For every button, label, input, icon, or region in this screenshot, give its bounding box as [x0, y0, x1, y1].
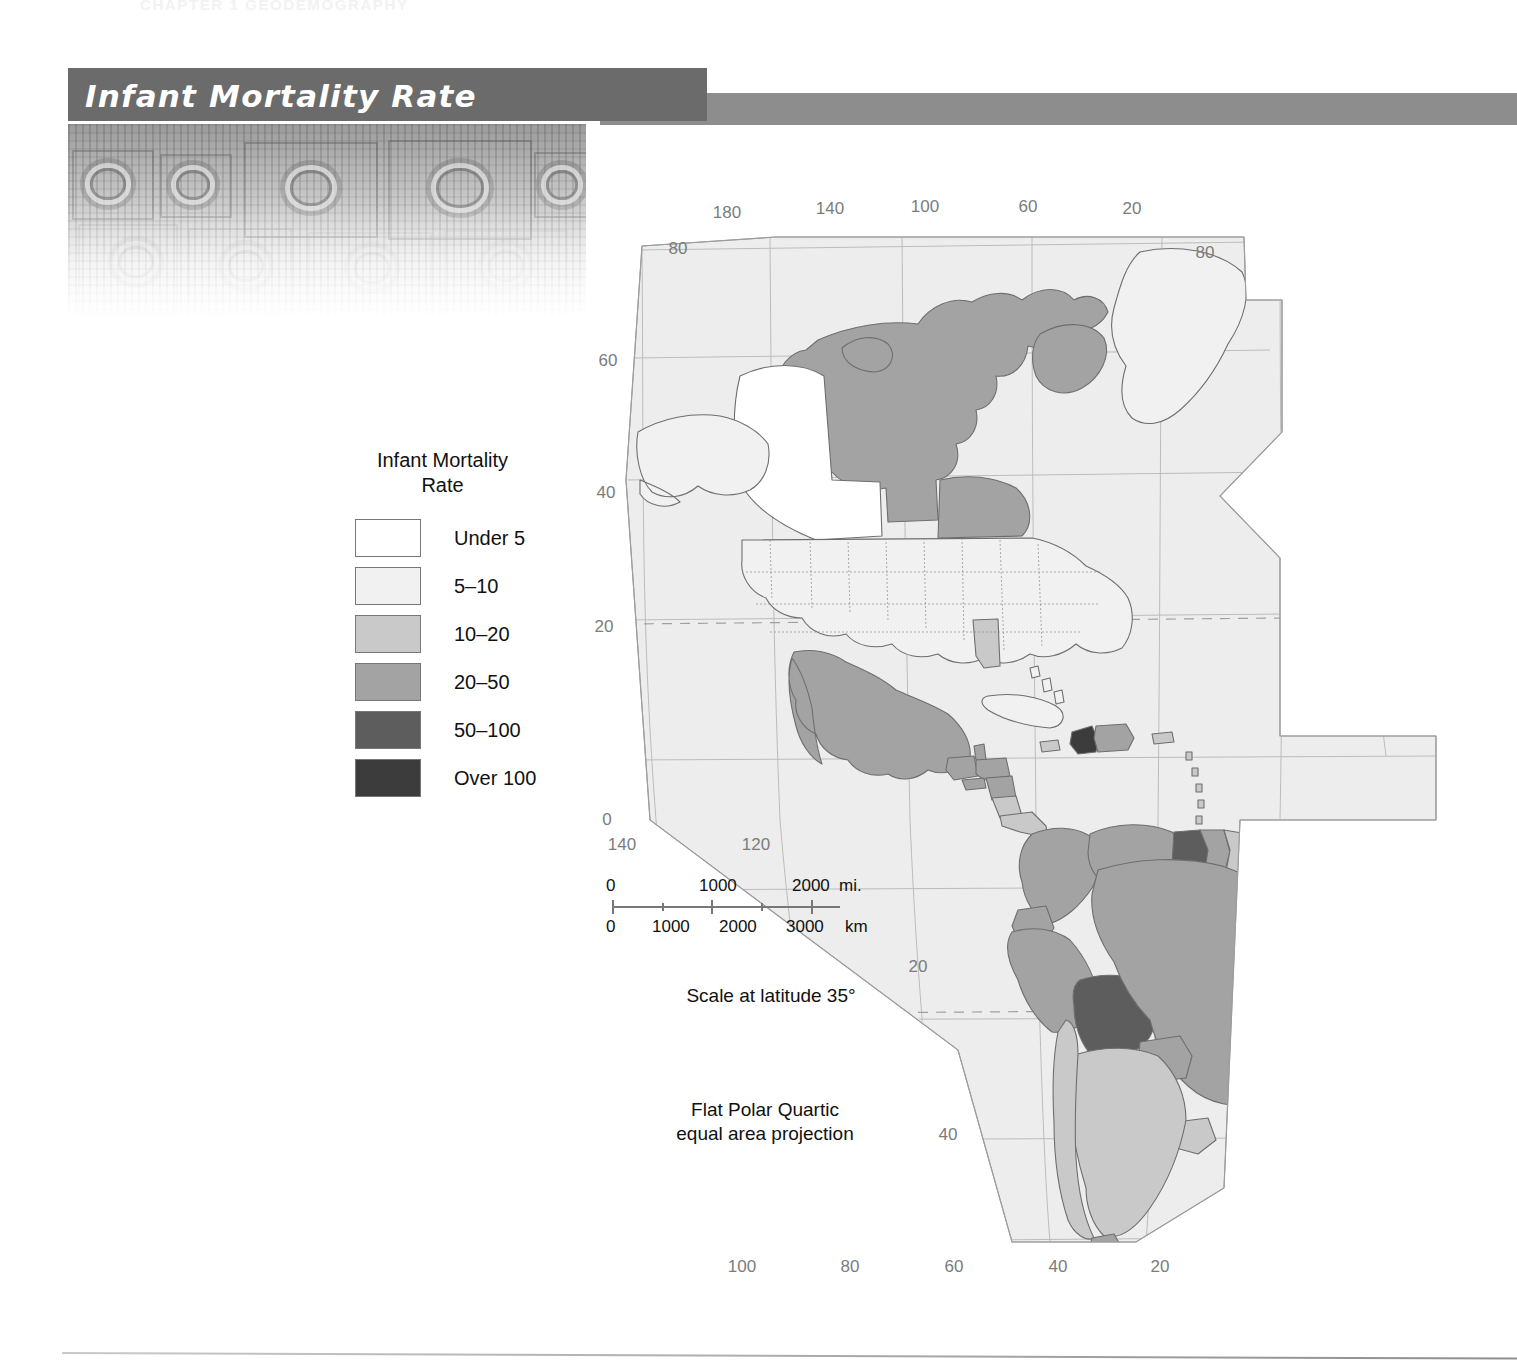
scale-miles-0: 0 [606, 876, 615, 896]
legend-swatch-50-100 [355, 711, 421, 749]
legend-swatch-under-5 [355, 519, 421, 557]
legend-item-10-20[interactable]: 10–20 [355, 610, 555, 658]
legend-label-10-20: 10–20 [454, 623, 510, 646]
bottom-longitude-140: 140 [608, 835, 636, 854]
projection-note: Flat Polar Quartic equal area projection [600, 1098, 930, 1146]
top-longitude-60: 60 [1019, 197, 1038, 216]
scale-km-labels: 0 1000 2000 3000 km [606, 917, 866, 939]
scale-ruler [606, 900, 866, 914]
bottom-longitude-60: 60 [945, 1257, 964, 1276]
south-latitude-20: 20 [909, 957, 928, 976]
legend-label-5-10: 5–10 [454, 575, 499, 598]
page-title: Infant Mortality Rate [85, 78, 477, 114]
legend-item-20-50[interactable]: 20–50 [355, 658, 555, 706]
textile-pattern-photograph [68, 124, 586, 318]
bottom-longitude-80: 80 [841, 1257, 860, 1276]
legend-swatch-10-20 [355, 615, 421, 653]
legend-swatch-over-100 [355, 759, 421, 797]
top-longitude-140: 140 [816, 199, 844, 218]
legend-label-20-50: 20–50 [454, 671, 510, 694]
left-latitude-80: 80 [669, 239, 688, 258]
scale-miles-2000: 2000 [792, 876, 830, 896]
top-longitude-180: 180 [713, 203, 741, 222]
scale-km-0: 0 [606, 917, 615, 937]
bottom-longitude-100: 100 [728, 1257, 756, 1276]
bottom-longitude-40: 40 [1049, 1257, 1068, 1276]
scale-miles-1000: 1000 [699, 876, 737, 896]
top-longitude-20: 20 [1123, 199, 1142, 218]
projection-line2: equal area projection [600, 1122, 930, 1146]
legend-item-5-10[interactable]: 5–10 [355, 562, 555, 610]
region-jamaica [1040, 740, 1060, 752]
bottom-longitude-20: 20 [1151, 1257, 1170, 1276]
scale-km-2000: 2000 [719, 917, 757, 937]
region-dominican-republic [1094, 724, 1134, 752]
legend-item-50-100[interactable]: 50–100 [355, 706, 555, 754]
scale-km-3000: 3000 [786, 917, 824, 937]
legend-title-line1: Infant Mortality [355, 448, 530, 473]
region-el-salvador [962, 778, 986, 790]
scale-miles-labels: 0 1000 2000 mi. [606, 876, 866, 898]
legend-title-line2: Rate [355, 473, 530, 498]
region-puerto-rico [1152, 732, 1174, 744]
scale-miles-unit: mi. [839, 876, 862, 896]
top-longitude-100: 100 [911, 197, 939, 216]
region-falklands [1174, 1224, 1188, 1234]
legend-title: Infant Mortality Rate [355, 448, 530, 498]
south-latitude-40: 40 [939, 1125, 958, 1144]
region-guatemala [946, 756, 978, 780]
legend-label-under-5: Under 5 [454, 527, 525, 550]
legend-swatch-20-50 [355, 663, 421, 701]
secondary-banner-bar [600, 93, 1517, 125]
bottom-longitude-120: 120 [742, 835, 770, 854]
photo-fade-overlay [68, 124, 586, 318]
scale-caption: Scale at latitude 35° [606, 985, 936, 1007]
projection-line1: Flat Polar Quartic [600, 1098, 930, 1122]
legend-item-over-100[interactable]: Over 100 [355, 754, 555, 802]
region-belize [974, 744, 986, 760]
scale-km-unit: km [845, 917, 868, 937]
left-latitude-20: 20 [595, 617, 614, 636]
map-legend: Infant Mortality Rate Under 5 5–10 10–20… [355, 448, 555, 802]
legend-item-under-5[interactable]: Under 5 [355, 514, 555, 562]
map-scale-bar: 0 1000 2000 mi. 0 1000 2000 3000 km [606, 876, 866, 939]
legend-swatch-5-10 [355, 567, 421, 605]
left-latitude-40: 40 [597, 483, 616, 502]
running-header: CHAPTER 1 GEODEMOGRAPHY [140, 0, 409, 13]
legend-label-over-100: Over 100 [454, 767, 536, 790]
right-latitude-80: 80 [1196, 243, 1215, 262]
left-latitude-60: 60 [599, 351, 618, 370]
page-bottom-rule [62, 1352, 1517, 1360]
scale-km-1000: 1000 [652, 917, 690, 937]
legend-label-50-100: 50–100 [454, 719, 521, 742]
left-latitude-0: 0 [602, 810, 611, 829]
